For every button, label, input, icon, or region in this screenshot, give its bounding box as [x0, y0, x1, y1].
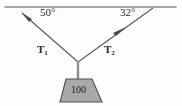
- physics-diagram-svg: [0, 0, 182, 106]
- tension-label-t1: T1: [37, 44, 48, 55]
- angle-label-left: 50°: [40, 7, 55, 18]
- rope-right-arrowhead: [113, 27, 126, 36]
- tension-label-t2-subscript: 2: [111, 49, 115, 57]
- figure-canvas: 50° 32° T1 T2 100: [0, 0, 182, 106]
- weight-label: 100: [71, 85, 86, 95]
- tension-label-t2: T2: [104, 44, 115, 55]
- angle-label-right: 32°: [120, 7, 135, 18]
- tension-label-t1-subscript: 1: [44, 49, 48, 57]
